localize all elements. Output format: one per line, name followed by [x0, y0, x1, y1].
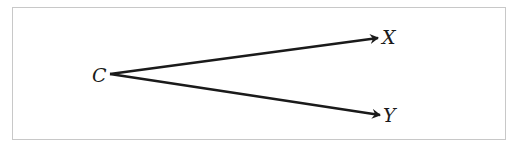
edge-c-to-x	[110, 38, 378, 74]
node-label-c: C	[92, 64, 107, 86]
node-label-x: X	[380, 26, 397, 48]
diagram-canvas: C X Y	[0, 0, 517, 148]
node-label-y: Y	[383, 104, 398, 126]
edge-c-to-y	[110, 74, 380, 115]
